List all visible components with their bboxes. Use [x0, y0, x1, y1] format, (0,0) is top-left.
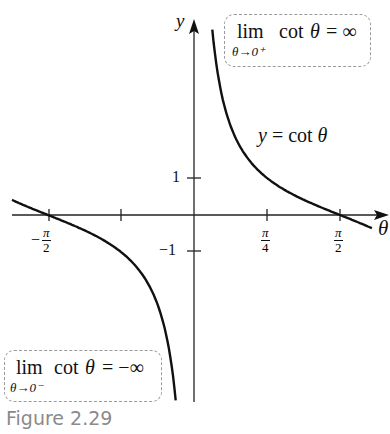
limit-right: lim θ→0⁺ cot θ = ∞: [224, 14, 369, 65]
lim-subscript: θ→0⁻: [10, 380, 43, 396]
frac-denominator: 4: [262, 241, 269, 255]
x-tick-label-pi-4: π 4: [261, 226, 270, 255]
y-tick-label-1: 1: [172, 168, 180, 186]
limit-left: lim θ→0⁻ cot θ = −∞: [4, 350, 160, 400]
lim-theta: θ: [310, 20, 320, 43]
lim-theta: θ: [85, 356, 95, 379]
frac-numerator: π: [261, 226, 270, 241]
x-axis-label: θ: [378, 216, 388, 241]
lim-cot: cot: [54, 356, 78, 379]
lim-word: lim: [16, 356, 43, 379]
lim-cot: cot: [279, 20, 303, 43]
frac-denominator: 2: [335, 241, 342, 255]
lim-rhs: = ∞: [326, 20, 357, 43]
frac-denominator: 2: [43, 241, 50, 255]
y-tick-label-minus-1: −1: [159, 241, 176, 259]
lim-subscript: θ→0⁺: [232, 44, 265, 60]
lim-rhs: = −∞: [102, 356, 144, 379]
x-tick-label-neg-pi-2-sign: −: [31, 231, 40, 249]
curve-label: y = cot θ: [258, 124, 327, 147]
x-tick-label-neg-pi-2: π 2: [42, 226, 51, 255]
lim-word: lim: [237, 20, 264, 43]
frac-numerator: π: [42, 226, 51, 241]
frac-numerator: π: [334, 226, 343, 241]
y-axis-label: y: [176, 10, 184, 32]
curve-label-theta: θ: [318, 124, 328, 146]
curve-label-cot: = cot: [272, 124, 313, 146]
figure-caption: Figure 2.29: [6, 407, 112, 429]
curve-label-y: y: [258, 124, 267, 146]
x-tick-label-pi-2: π 2: [334, 226, 343, 255]
